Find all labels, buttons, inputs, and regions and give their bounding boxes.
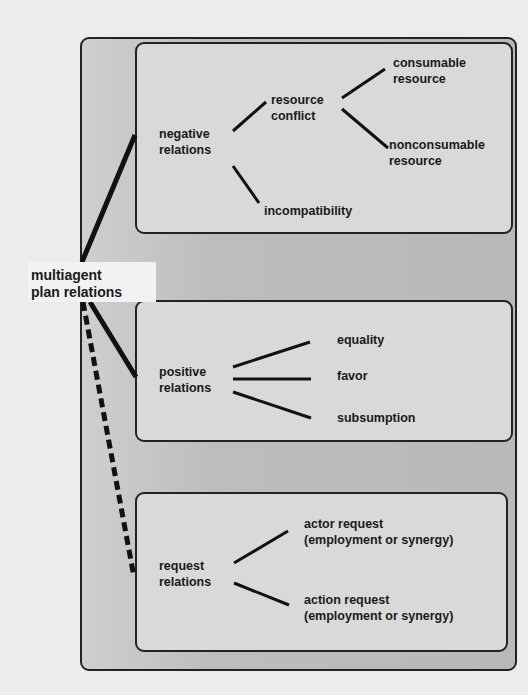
node-positive-relations: positive relations (159, 364, 211, 396)
conflict-to-consumable-link (342, 69, 385, 98)
root-to-negative-link (82, 135, 135, 262)
node-consumable-resource: consumable resource (393, 55, 466, 87)
negative-to-resource-conflict-link (233, 102, 266, 131)
root-node-multiagent-plan-relations: multiagent plan relations (28, 262, 156, 302)
conflict-to-nonconsumable-link (342, 109, 388, 148)
node-negative-relations: negative relations (159, 126, 211, 158)
connector-lines (0, 0, 528, 695)
request-to-actor-link (234, 531, 288, 563)
node-incompatibility: incompatibility (264, 203, 352, 219)
request-to-action-link (234, 583, 289, 605)
positive-to-subsumption-link (233, 392, 311, 418)
node-request-relations: request relations (159, 558, 211, 590)
node-actor-request: actor request (employment or synergy) (304, 516, 453, 548)
node-nonconsumable-resource: nonconsumable resource (389, 137, 485, 169)
node-subsumption: subsumption (337, 410, 415, 426)
node-action-request: action request (employment or synergy) (304, 592, 453, 624)
root-to-request-link (83, 302, 134, 577)
negative-to-incompatibility-link (233, 166, 259, 203)
root-to-positive-link (90, 302, 136, 377)
node-resource-conflict: resource conflict (271, 92, 324, 124)
positive-to-equality-link (233, 342, 310, 367)
node-equality: equality (337, 332, 384, 348)
node-favor: favor (337, 368, 368, 384)
